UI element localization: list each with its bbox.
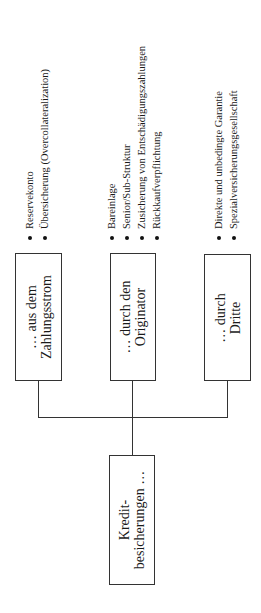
branch-1-line-1: … aus dem [24,275,39,359]
branch-box-originator: … durch den Originator [110,253,156,381]
list-item: Rückkaufverpflichtung [151,132,163,240]
branch-stem-1 [38,380,39,417]
list-item: Zusicherung von Entschädigungszahlungen [136,46,148,240]
branch-1-line-2: Zahlungsstrom [39,275,54,359]
item-text: Bareinlage [106,184,118,229]
item-text: Direkte und unbedingte Garantie [213,91,225,229]
item-text: Rückkaufverpflichtung [151,132,163,229]
item-text: Senior/Sub-Struktur [121,144,133,229]
branch-3-line-2: Dritte [228,293,243,342]
list-item: Spezialversicherungsgesellschaft [228,90,240,240]
item-text: Übersicherung (Overcollateralization) [39,69,51,229]
root-label-line-2: besicherungen … [132,471,147,569]
root-box: Kredit- besicherungen … [109,455,155,585]
branch-label-1: … aus dem Zahlungsstrom [24,275,54,359]
branch-box-dritte: … durch Dritte [204,254,251,381]
branch-box-zahlungsstrom: … aus dem Zahlungsstrom [15,253,62,381]
item-text: Reservekonto [24,171,36,229]
bullet-icon [217,236,221,240]
branch-label-3: … durch Dritte [213,293,243,342]
branch-stem-2 [132,380,133,417]
branch-label-2: … durch den Originator [118,280,148,353]
list-item: Reservekonto [24,171,36,240]
item-text: Spezialversicherungsgesellschaft [228,90,240,229]
branch-stem-3 [227,380,228,417]
branch-3-line-1: … durch [213,293,228,342]
bullet-icon [125,236,129,240]
item-text: Zusicherung von Entschädigungszahlungen [136,46,148,229]
bullet-icon [155,236,159,240]
horizontal-connector [38,417,228,418]
list-item: Senior/Sub-Struktur [121,144,133,240]
list-item: Direkte und unbedingte Garantie [213,91,225,240]
bullet-icon [140,236,144,240]
bullet-icon [43,236,47,240]
bullet-icon [232,236,236,240]
list-item: Bareinlage [106,184,118,240]
branch-2-line-1: … durch den [118,280,133,353]
root-stem [132,417,133,455]
bullet-icon [28,236,32,240]
root-label-line-1: Kredit- [117,471,132,569]
list-item: Übersicherung (Overcollateralization) [39,69,51,240]
root-label: Kredit- besicherungen … [117,471,147,569]
branch-2-line-2: Originator [133,280,148,353]
bullet-icon [110,236,114,240]
